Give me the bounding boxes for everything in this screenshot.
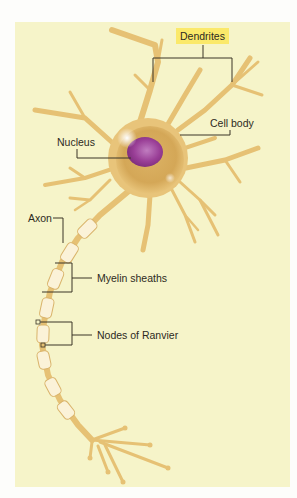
cell-body-label: Cell body <box>210 117 254 129</box>
myelin-sheaths-label: Myelin sheaths <box>97 272 167 284</box>
nucleus-label: Nucleus <box>57 136 95 148</box>
axon-leader <box>53 218 63 243</box>
dendrites-label: Dendrites <box>176 28 229 44</box>
axon-label: Axon <box>28 212 52 224</box>
neuron-illustration <box>0 0 297 498</box>
axon-terminals <box>90 428 168 482</box>
cell-body-leader <box>180 130 230 135</box>
nodes-of-ranvier-label: Nodes of Ranvier <box>97 329 178 341</box>
